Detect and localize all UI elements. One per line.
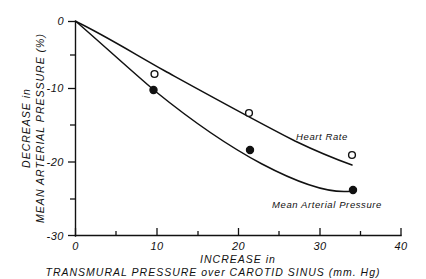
mean-arterial-pressure-point-2 (246, 146, 253, 153)
x-tick-label-0: 0 (72, 240, 79, 252)
heart-rate-point-1 (151, 71, 158, 78)
x-axis-title-line1: INCREASE in (200, 253, 276, 265)
x-tick-label-30: 30 (313, 240, 327, 252)
series-mean-arterial-pressure: Mean Arterial Pressure (76, 22, 382, 211)
y-tick-label-0: 0 (57, 15, 64, 27)
x-axis: 0 10 20 30 40 (72, 228, 408, 252)
y-axis: 0 -10 -20 -30 (47, 15, 76, 242)
y-tick-label-minus10: -10 (47, 82, 65, 94)
heart-rate-curve (76, 22, 352, 166)
x-axis-title-line2: TRANSMURAL PRESSURE over CAROTID SINUS (… (45, 266, 380, 278)
mean-arterial-pressure-annotation: Mean Arterial Pressure (272, 199, 382, 210)
chart-figure: 0 -10 -20 -30 0 10 20 30 40 INCREASE (0, 0, 426, 279)
y-axis-title-line1: DECREASE in (20, 88, 32, 168)
x-tick-label-10: 10 (150, 240, 164, 252)
mean-arterial-pressure-curve (76, 22, 352, 192)
x-tick-label-20: 20 (231, 240, 246, 252)
y-tick-label-minus30: -30 (47, 230, 65, 242)
mean-arterial-pressure-point-3 (349, 186, 356, 193)
heart-rate-annotation: Heart Rate (296, 131, 348, 142)
heart-rate-point-2 (246, 110, 253, 117)
heart-rate-point-3 (349, 152, 356, 159)
y-axis-title-line2: MEAN ARTERIAL PRESSURE (%) (34, 33, 46, 223)
carotid-sinus-pressure-chart: 0 -10 -20 -30 0 10 20 30 40 INCREASE (0, 0, 426, 279)
mean-arterial-pressure-point-1 (150, 86, 157, 93)
series-heart-rate: Heart Rate (76, 22, 355, 166)
x-tick-label-40: 40 (394, 240, 408, 252)
y-tick-label-minus20: -20 (47, 156, 65, 168)
